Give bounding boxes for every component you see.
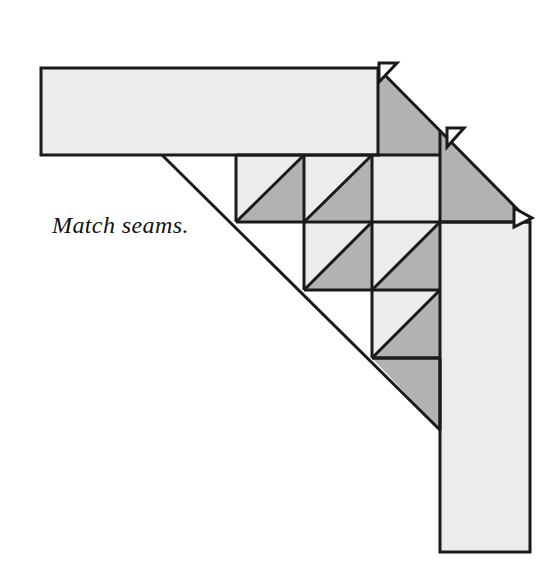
top-border-strip bbox=[41, 68, 378, 155]
diagram-root: Match seams. bbox=[0, 0, 558, 577]
grid-cell-r1c3-plain bbox=[372, 155, 440, 222]
right-border-strip bbox=[440, 222, 530, 552]
caption-match-seams: Match seams. bbox=[51, 212, 189, 238]
piece-fills bbox=[41, 68, 530, 552]
quilt-piecing-diagram: Match seams. bbox=[0, 0, 558, 577]
seam-allowance-tab-2-icon bbox=[447, 128, 464, 147]
